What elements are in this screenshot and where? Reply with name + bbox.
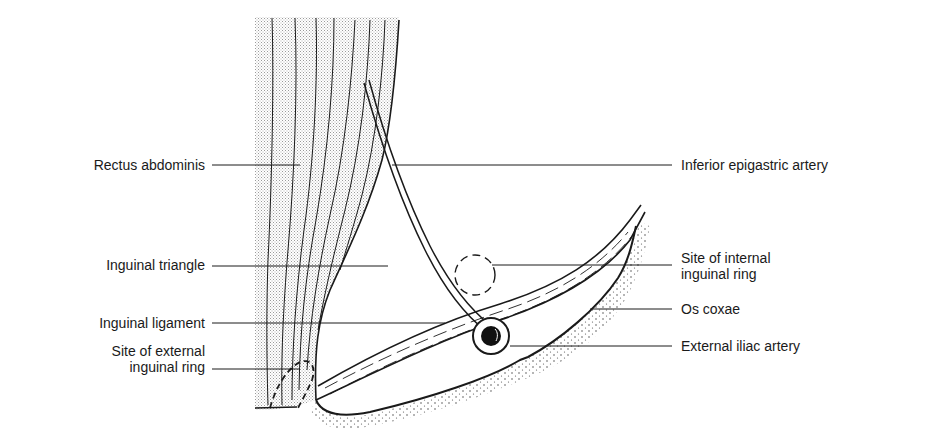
label-inferior-epigastric-artery: Inferior epigastric artery	[681, 157, 828, 173]
label-external-inguinal-ring: Site of external inguinal ring	[112, 343, 205, 375]
rectus-abdominis-muscle	[255, 17, 399, 410]
label-internal-inguinal-ring: Site of internal inguinal ring	[681, 250, 771, 282]
inguinal-ligament-band	[316, 205, 645, 400]
label-os-coxae: Os coxae	[681, 301, 740, 317]
external-iliac-artery-vessel	[473, 318, 509, 354]
label-inguinal-triangle: Inguinal triangle	[106, 257, 205, 273]
label-rectus-abdominis: Rectus abdominis	[94, 157, 205, 173]
label-external-iliac-artery: External iliac artery	[681, 338, 800, 354]
internal-inguinal-ring-site	[455, 255, 495, 295]
label-inguinal-ligament: Inguinal ligament	[99, 315, 205, 331]
